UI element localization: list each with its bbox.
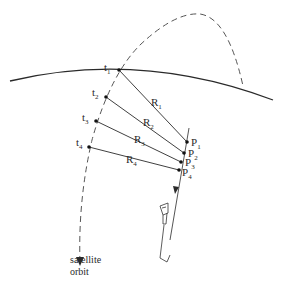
aircraft-point-p2 — [182, 151, 186, 155]
label-t2: t2 — [92, 86, 99, 101]
label-r3: R3 — [134, 133, 145, 148]
aircraft-point-p4 — [177, 168, 181, 172]
label-r4: R4 — [126, 153, 137, 168]
earth-horizon-curve — [10, 69, 273, 100]
satellite-point-t1 — [117, 68, 121, 72]
aircraft-point-p3 — [179, 160, 183, 164]
satellite-point-t4 — [87, 145, 91, 149]
satellite-orbit-label-line1: satellite — [70, 254, 102, 265]
diagram-canvas: t1 t2 t3 t4 R1 R2 R3 R4 P1 P2 P3 P4 sate… — [0, 0, 281, 285]
label-t3: t3 — [82, 111, 89, 126]
label-t1: t1 — [104, 61, 111, 76]
label-r1: R1 — [151, 96, 162, 111]
satellite-point-t2 — [104, 95, 108, 99]
aircraft-icon — [160, 203, 170, 262]
satellite-point-t3 — [94, 119, 98, 123]
satellite-orbit-curve — [80, 14, 243, 262]
aircraft-point-p1 — [185, 140, 189, 144]
label-r2: R2 — [143, 116, 154, 131]
satellite-orbit-label-line2: orbit — [70, 266, 89, 277]
label-t4: t4 — [76, 136, 83, 151]
